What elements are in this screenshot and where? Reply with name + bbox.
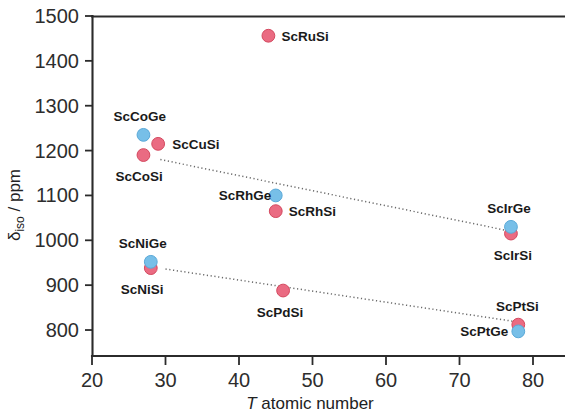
- upper-trendline: [160, 160, 511, 232]
- point-label-scnisi: ScNiSi: [121, 282, 164, 297]
- x-axis-title-rest: atomic number: [257, 394, 374, 413]
- svg-text:δiso / ppm: δiso / ppm: [5, 169, 27, 241]
- data-point-scrusi[interactable]: [262, 29, 275, 42]
- y-tick-label: 1500: [35, 5, 80, 27]
- point-label-sccoge: ScCoGe: [113, 109, 166, 124]
- data-point-scirge[interactable]: [505, 220, 518, 233]
- x-axis-title: T atomic number: [246, 394, 374, 413]
- y-axis-title-unit: / ppm: [5, 169, 24, 216]
- data-point-sccosi[interactable]: [137, 149, 150, 162]
- data-point-sccoge[interactable]: [137, 128, 150, 141]
- trendlines-group: [160, 160, 520, 323]
- point-label-scrhsi: ScRhSi: [289, 204, 336, 219]
- point-label-scptsi: ScPtSi: [496, 299, 539, 314]
- y-axis-title-delta: δ: [5, 232, 24, 241]
- point-label-scrusi: ScRuSi: [281, 29, 328, 44]
- point-label-scirge: ScIrGe: [487, 201, 531, 216]
- y-tick-label: 900: [46, 274, 79, 296]
- y-tick-label: 1000: [35, 229, 80, 251]
- x-tick-label: 20: [81, 369, 103, 391]
- data-point-sccusi[interactable]: [152, 137, 165, 150]
- data-point-scptge[interactable]: [512, 325, 525, 338]
- point-label-scpdsi: ScPdSi: [257, 305, 304, 320]
- y-tick-label: 1400: [35, 50, 80, 72]
- point-label-scirsi: ScIrSi: [494, 248, 532, 263]
- data-point-scpdsi[interactable]: [277, 284, 290, 297]
- data-point-scrhsi[interactable]: [269, 205, 282, 218]
- data-point-labels-group: ScCoSiScCuSiScRuSiScRhSiScIrSiScNiSiScPd…: [113, 29, 538, 340]
- data-markers-group: [137, 29, 525, 337]
- chart-axes: [92, 16, 565, 356]
- point-label-sccosi: ScCoSi: [115, 169, 162, 184]
- x-axis-ticks: 20304050607080: [81, 356, 544, 391]
- y-tick-label: 1300: [35, 95, 80, 117]
- x-tick-label: 70: [448, 369, 470, 391]
- point-label-sccusi: ScCuSi: [172, 137, 219, 152]
- y-axis-title: δiso / ppm: [5, 169, 27, 241]
- x-tick-label: 30: [154, 369, 176, 391]
- point-label-scptge: ScPtGe: [460, 324, 509, 339]
- y-tick-label: 800: [46, 319, 79, 341]
- y-axis-title-sub: iso: [13, 216, 27, 232]
- data-point-scnige[interactable]: [144, 255, 157, 268]
- lower-trendline: [166, 269, 521, 322]
- x-tick-label: 40: [228, 369, 250, 391]
- x-tick-label: 60: [375, 369, 397, 391]
- scatter-chart-figure: 800900100011001200130014001500 203040506…: [0, 0, 565, 414]
- x-tick-label: 50: [301, 369, 323, 391]
- x-tick-label: 80: [522, 369, 544, 391]
- y-tick-label: 1100: [36, 184, 79, 206]
- point-label-scnige: ScNiGe: [119, 236, 168, 251]
- y-tick-label: 1200: [35, 140, 80, 162]
- point-label-scrhge: ScRhGe: [219, 188, 272, 203]
- y-axis-ticks: 800900100011001200130014001500: [35, 5, 94, 341]
